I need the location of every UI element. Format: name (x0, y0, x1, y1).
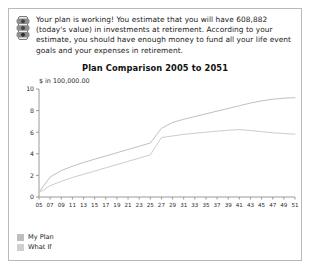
svg-text:05: 05 (35, 202, 43, 208)
svg-text:39: 39 (225, 202, 233, 208)
svg-text:37: 37 (214, 202, 222, 208)
svg-text:51: 51 (291, 202, 299, 208)
status-message-text: Your plan is working! You estimate that … (36, 15, 293, 56)
svg-text:27: 27 (158, 202, 166, 208)
svg-text:6: 6 (30, 128, 34, 135)
legend-item-what-if: What If (17, 243, 301, 252)
svg-text:47: 47 (269, 202, 277, 208)
svg-text:17: 17 (102, 202, 110, 208)
svg-text:10: 10 (26, 85, 34, 92)
plan-comparison-chart: $ in 100,000.00 024681005070911131517192… (9, 77, 303, 227)
traffic-light-icon (16, 16, 30, 44)
chart-title: Plan Comparison 2005 to 2051 (9, 63, 301, 73)
svg-text:0: 0 (30, 193, 34, 200)
plan-comparison-panel: Your plan is working! You estimate that … (8, 8, 302, 261)
svg-text:21: 21 (124, 202, 132, 208)
legend-swatch-my-plan (17, 234, 24, 241)
chart-legend: My Plan What If (17, 233, 301, 252)
svg-text:09: 09 (58, 202, 66, 208)
svg-text:23: 23 (136, 202, 144, 208)
svg-text:29: 29 (169, 202, 177, 208)
svg-text:43: 43 (247, 202, 255, 208)
svg-text:31: 31 (180, 202, 188, 208)
svg-text:49: 49 (280, 202, 288, 208)
svg-text:45: 45 (258, 202, 266, 208)
legend-label-my-plan: My Plan (28, 233, 54, 241)
legend-label-what-if: What If (28, 243, 52, 251)
svg-text:11: 11 (69, 202, 77, 208)
svg-text:8: 8 (30, 107, 34, 114)
svg-text:25: 25 (147, 202, 155, 208)
svg-text:4: 4 (30, 150, 34, 157)
svg-text:07: 07 (47, 202, 55, 208)
svg-text:41: 41 (236, 202, 244, 208)
svg-text:13: 13 (80, 202, 88, 208)
svg-text:35: 35 (202, 202, 210, 208)
legend-swatch-what-if (17, 244, 24, 251)
svg-text:19: 19 (113, 202, 121, 208)
svg-text:2: 2 (30, 172, 34, 179)
legend-item-my-plan: My Plan (17, 233, 301, 242)
status-message-row: Your plan is working! You estimate that … (9, 9, 301, 56)
svg-text:15: 15 (91, 202, 99, 208)
chart-plot-area: 0246810050709111315171921232527293133353… (9, 77, 303, 227)
svg-text:33: 33 (191, 202, 199, 208)
